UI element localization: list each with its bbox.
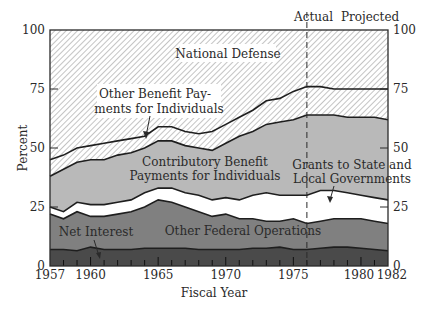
label-other-benefit-2: ments for Individuals: [94, 102, 223, 116]
x-tick-label: 1980: [344, 268, 375, 282]
y-tick-label-left: 100: [22, 23, 45, 37]
x-tick-label: 1960: [75, 268, 106, 282]
label-contributory-1: Contributory Benefit: [142, 155, 268, 169]
x-tick-label: 1965: [143, 268, 174, 282]
label-contributory-2: Payments for Individuals: [130, 169, 281, 183]
label-actual: Actual: [293, 10, 333, 24]
y-tick-label-right: 25: [393, 200, 408, 214]
x-axis-label: Fiscal Year: [181, 286, 248, 300]
y-tick-label-right: 50: [393, 141, 408, 155]
label-other-federal: Other Federal Operations: [165, 224, 321, 238]
label-net-interest: Net Interest: [59, 225, 134, 239]
x-tick-label: 1975: [278, 268, 309, 282]
x-tick-label: 1970: [210, 268, 241, 282]
y-tick-label-right: 100: [393, 23, 416, 37]
y-tick-label-left: 75: [30, 82, 45, 96]
y-tick-label-left: 50: [30, 141, 45, 155]
x-tick-label: 1957: [35, 268, 66, 282]
label-grants-1: Grants to State and: [292, 158, 412, 172]
y-tick-label-right: 75: [393, 82, 408, 96]
stacked-area-chart: Actual Projected National Defense Other …: [0, 0, 429, 314]
chart-canvas: Actual Projected National Defense Other …: [0, 0, 429, 314]
label-projected: Projected: [341, 10, 400, 24]
label-national-defense: National Defense: [175, 47, 280, 61]
y-axis-label: Percent: [16, 124, 30, 171]
label-other-benefit-1: Other Benefit Pay-: [99, 87, 211, 101]
y-tick-label-left: 25: [30, 200, 45, 214]
label-grants-2: Local Governments: [293, 172, 411, 186]
x-tick-label: 1982: [377, 268, 408, 282]
